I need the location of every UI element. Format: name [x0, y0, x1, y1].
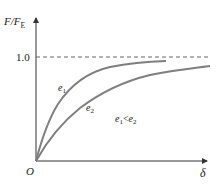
annotation-e1-lt-e2: e1<e2	[115, 113, 137, 126]
curve-e2-label: e2	[86, 102, 94, 115]
y-tick-label-1.0: 1.0	[16, 51, 30, 63]
y-axis-label: F/FE	[3, 15, 26, 30]
curve-e1-label: e1	[58, 82, 66, 95]
x-axis-label: δ	[200, 166, 206, 180]
origin-label: O	[26, 165, 34, 177]
chart: F/FE 1.0 O δ e1 e2 e1<e2	[0, 0, 222, 185]
